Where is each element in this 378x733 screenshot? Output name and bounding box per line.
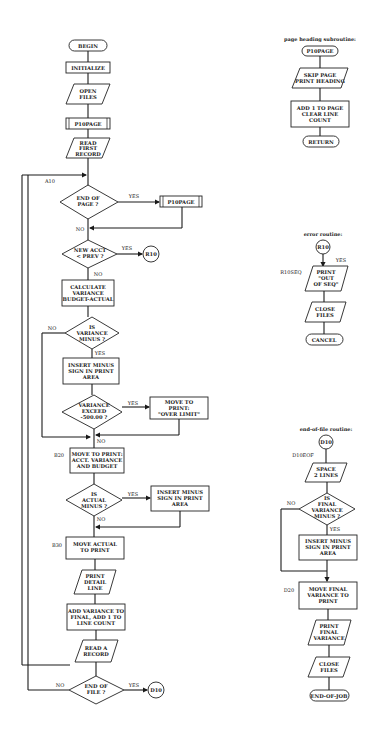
read-a-record-io: READ A RECORD — [75, 640, 118, 662]
close-files-io-2: CLOSE FILES — [308, 657, 350, 677]
svg-text:FILES: FILES — [79, 94, 97, 100]
new-acct-decision: NEW ACCT < PREV ? — [62, 240, 117, 268]
svg-text:AND BUDGET: AND BUDGET — [76, 463, 118, 469]
yes-label: YES — [94, 350, 106, 356]
label-b30: B30 — [52, 542, 62, 548]
flowchart: BEGIN INITIALIZE OPEN FILES P10PAGE READ… — [0, 0, 378, 733]
no-label: NO — [76, 226, 84, 232]
skip-page-print-heading-io: SKIP PAGE PRINT HEADING — [292, 68, 348, 88]
svg-text:BEGIN: BEGIN — [78, 43, 98, 49]
svg-text:FILES: FILES — [316, 312, 334, 318]
d10-connector: D10 — [148, 682, 164, 698]
yes-label: YES — [128, 682, 140, 688]
d10-entry-connector: D10 — [319, 435, 333, 449]
svg-text:-500.00 ?: -500.00 ? — [81, 414, 108, 420]
yes-label: YES — [127, 491, 139, 497]
cancel-terminal: CANCEL — [306, 334, 343, 345]
r10-entry-connector: R10 — [316, 240, 330, 254]
svg-text:AREA: AREA — [171, 501, 189, 507]
svg-text:PRINT HEADING: PRINT HEADING — [295, 78, 346, 84]
svg-text:R10: R10 — [317, 244, 329, 250]
yes-label: YES — [329, 526, 341, 532]
svg-text:CANCEL: CANCEL — [312, 337, 337, 343]
no-label: NO — [97, 438, 105, 444]
over-limit-process: MOVE TO PRINT: "OVER LIMIT" — [150, 397, 208, 419]
label-d20: D20 — [284, 587, 294, 593]
initialize-process: INITIALIZE — [66, 62, 110, 73]
end-of-page-decision: END OF PAGE ? — [60, 185, 118, 219]
svg-text:2 LINES: 2 LINES — [314, 472, 338, 478]
yes-label: YES — [335, 257, 347, 263]
svg-text:P10PAGE: P10PAGE — [306, 48, 333, 54]
read-first-record-io: READ FIRST RECORD — [66, 138, 110, 158]
svg-text:OF SEQ": OF SEQ" — [314, 281, 339, 287]
p10page-start-terminal: P10PAGE — [302, 46, 338, 56]
svg-text:MINUS ?: MINUS ? — [314, 513, 340, 519]
insert-minus-sign-process-2: INSERT MINUS SIGN IN PRINT AREA — [151, 486, 209, 511]
svg-text:OPEN: OPEN — [79, 88, 96, 94]
no-label: NO — [94, 271, 102, 277]
svg-text:MINUS ?: MINUS ? — [79, 336, 105, 342]
svg-text:COUNT: COUNT — [309, 117, 331, 123]
svg-text:RECORD: RECORD — [83, 651, 109, 657]
return-terminal: RETURN — [303, 136, 339, 147]
svg-text:P10PAGE: P10PAGE — [167, 199, 194, 205]
open-files-io: OPEN FILES — [66, 84, 110, 104]
print-final-variance-io: PRINT FINAL VARIANCE — [308, 620, 351, 645]
r10-connector: R10 — [143, 246, 159, 262]
svg-text:D10: D10 — [320, 439, 332, 445]
end-of-job-terminal: END-OF-JOB — [310, 690, 349, 701]
label-a10: A10 — [44, 178, 55, 184]
svg-text:< PREV ?: < PREV ? — [76, 253, 103, 259]
no-label: NO — [287, 500, 295, 506]
eof-routine-title: end-of-file routine: — [300, 426, 353, 432]
yes-label: YES — [128, 193, 140, 199]
space-2-lines-io: SPACE 2 LINES — [305, 463, 347, 482]
svg-text:AREA: AREA — [319, 550, 337, 556]
svg-text:FILES: FILES — [320, 667, 338, 673]
svg-text:END-OF-JOB: END-OF-JOB — [311, 693, 349, 700]
insert-minus-sign-process-1: INSERT MINUS SIGN IN PRINT AREA — [63, 358, 119, 384]
svg-text:PAGE ?: PAGE ? — [78, 201, 99, 207]
calculate-variance-process: CALCULATE VARIANCE BUDGET-ACTUAL — [62, 280, 114, 306]
close-files-io: CLOSE FILES — [305, 302, 346, 322]
svg-text:AREA: AREA — [82, 374, 100, 380]
svg-text:VARIANCE: VARIANCE — [312, 635, 344, 641]
page-heading-title: page heading subroutine: — [284, 36, 356, 43]
svg-text:LINE: LINE — [88, 585, 103, 591]
move-actual-process: MOVE ACTUAL TO PRINT — [66, 537, 124, 559]
svg-text:R10: R10 — [145, 251, 157, 257]
svg-text:BUDGET-ACTUAL: BUDGET-ACTUAL — [63, 296, 114, 302]
svg-text:TO PRINT: TO PRINT — [80, 547, 110, 553]
print-detail-line-io: PRINT DETAIL LINE — [74, 570, 116, 594]
svg-text:D10: D10 — [150, 687, 162, 693]
no-label: NO — [56, 682, 64, 688]
yes-label: YES — [121, 245, 133, 251]
move-to-print-process: MOVE TO PRINT: ACCT. VARIANCE AND BUDGET — [70, 448, 124, 473]
svg-text:MINUS ?: MINUS ? — [81, 503, 107, 509]
is-final-variance-minus-decision: IS FINAL VARIANCE MINUS ? — [299, 493, 355, 525]
label-d10eof: D10EOF — [292, 452, 314, 458]
end-of-file-decision: END OF FILE ? — [69, 676, 124, 704]
svg-text:P10PAGE: P10PAGE — [74, 121, 101, 127]
yes-label: YES — [127, 400, 139, 406]
add-variance-process: ADD VARIANCE TO FINAL, ADD 1 TO LINE COU… — [67, 604, 125, 630]
label-b20: B20 — [54, 452, 64, 458]
p10page-subroutine-call: P10PAGE — [66, 118, 110, 129]
add-page-clear-line-process: ADD 1 TO PAGE CLEAR LINE COUNT — [291, 101, 349, 127]
variance-exceed-decision: VARIANCE EXCEED -500.00 ? — [62, 395, 122, 429]
insert-minus-sign-process-3: INSERT MINUS SIGN IN PRINT AREA — [299, 535, 357, 560]
no-label: NO — [48, 325, 56, 331]
svg-text:LINE COUNT: LINE COUNT — [77, 620, 115, 626]
label-r10seq: R10SEQ — [280, 269, 301, 275]
svg-text:FILE ?: FILE ? — [87, 689, 106, 695]
p10page-subroutine-call-2: P10PAGE — [160, 196, 202, 207]
svg-text:RECORD: RECORD — [75, 151, 101, 157]
move-final-variance-process: MOVE FINAL VARIANCE TO PRINT — [299, 582, 357, 609]
svg-text:"OVER LIMIT": "OVER LIMIT" — [158, 411, 200, 417]
is-actual-minus-decision: IS ACTUAL MINUS ? — [66, 484, 122, 516]
begin-terminal: BEGIN — [69, 40, 107, 51]
no-label: NO — [97, 516, 105, 522]
svg-text:RETURN: RETURN — [308, 139, 334, 145]
svg-text:INITIALIZE: INITIALIZE — [71, 65, 105, 71]
